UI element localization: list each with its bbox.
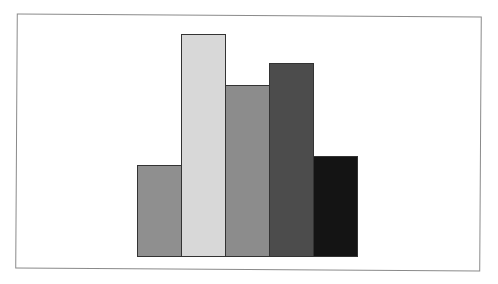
bar-5 [313, 156, 358, 257]
bar-2 [181, 34, 226, 257]
bar-3 [225, 85, 270, 257]
bar-1 [137, 165, 182, 257]
bar-chart-plot [0, 0, 498, 284]
bar-4 [269, 63, 314, 257]
